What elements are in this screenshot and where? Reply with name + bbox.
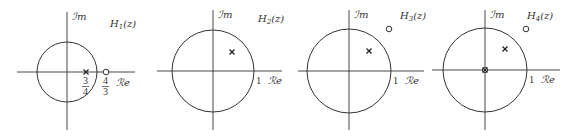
unit-tick-label: 1: [393, 75, 398, 86]
panel-h3: ℐm H3(z) 1 ℛe: [298, 9, 426, 130]
zero-fraction-label: 4 3: [102, 75, 109, 97]
pole-marker: [230, 50, 235, 55]
pole-marker: [367, 49, 372, 54]
pole-marker: [503, 47, 508, 52]
re-axis-label: ℛe: [268, 75, 282, 86]
unit-tick-label: 1: [529, 74, 534, 85]
svg-text:4: 4: [103, 75, 108, 86]
im-axis-label: ℐm: [72, 11, 86, 22]
pole-fraction-label: 3 4: [82, 75, 89, 97]
panel-title: H3(z): [399, 10, 426, 23]
panel-title: H4(z): [526, 10, 553, 23]
re-axis-label: ℛe: [405, 75, 419, 86]
unit-tick-label: 1: [256, 75, 261, 86]
re-axis-label: ℛe: [541, 74, 555, 85]
svg-text:3: 3: [83, 75, 88, 86]
svg-text:4: 4: [83, 86, 88, 97]
zero-marker: [523, 26, 529, 32]
pole-zero-diagrams: ℐm ℛe H1(z) 3 4 4 3 ℐm H2(z) 1 ℛe: [0, 0, 569, 140]
zero-marker: [103, 69, 109, 75]
im-axis-label: ℐm: [218, 9, 232, 20]
zero-marker: [386, 26, 392, 32]
svg-text:3: 3: [103, 86, 108, 97]
panel-h1: ℐm ℛe H1(z) 3 4 4 3: [17, 11, 136, 130]
panel-h4: ℐm H4(z) 1 ℛe: [432, 9, 560, 130]
im-axis-label: ℐm: [354, 9, 368, 20]
panel-title: H1(z): [109, 18, 136, 31]
im-axis-label: ℐm: [490, 9, 504, 20]
panel-h2: ℐm H2(z) 1 ℛe: [157, 9, 284, 130]
panel-title: H2(z): [257, 13, 284, 26]
re-axis-label: ℛe: [116, 77, 130, 88]
